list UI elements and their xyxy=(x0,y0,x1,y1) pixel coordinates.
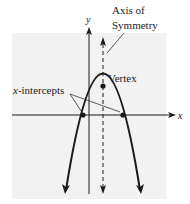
x-axis-label: x xyxy=(177,110,183,121)
axis-of-symmetry-label-line1: Axis of xyxy=(112,4,145,16)
x-intercepts-text: -intercepts xyxy=(18,84,64,96)
axis-of-symmetry-label-line2: Symmetry xyxy=(112,19,158,31)
vertex-label: Vertex xyxy=(108,72,137,84)
x-intercepts-label: x-intercepts xyxy=(12,84,64,96)
diagram-canvas: y x Axis of Symmetry Vertex x-intercepts xyxy=(0,0,190,204)
vertex-point xyxy=(100,83,105,88)
x-intercept-right-point xyxy=(120,112,125,117)
x-intercept-left-point xyxy=(80,112,85,117)
y-axis-label: y xyxy=(85,14,91,25)
parabola-diagram: y x Axis of Symmetry Vertex x-intercepts xyxy=(0,0,190,204)
